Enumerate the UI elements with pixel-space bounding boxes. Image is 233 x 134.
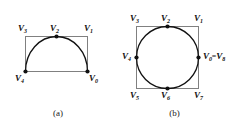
vertex-dot-v4	[134, 55, 138, 59]
vertex-label-v2: V2	[50, 24, 59, 34]
rectangle-outline	[26, 37, 88, 72]
vertex-label-v6: V6	[161, 91, 170, 101]
vertex-dot-v2	[54, 34, 58, 38]
vertex-label-v5: V5	[130, 91, 139, 101]
panel-caption-a: (a)	[0, 108, 116, 118]
vertex-label-v4: V4	[15, 74, 24, 84]
inscribed-circle	[137, 27, 199, 89]
vertex-label-v3: V3	[18, 24, 27, 34]
panel-caption-b: (b)	[116, 108, 233, 118]
vertex-label-v4: V4	[122, 52, 131, 62]
semicircle-arc	[26, 37, 88, 72]
vertex-dot-v4	[23, 69, 27, 73]
vertex-dot-v0	[196, 55, 200, 59]
figure-container: V3 V2 V1 V4 V0 (a) V3	[0, 0, 233, 134]
vertex-label-v1: V1	[84, 24, 93, 34]
vertex-label-v0: V0	[89, 74, 98, 84]
diagram-panel-a: V3 V2 V1 V4 V0 (a)	[0, 0, 116, 134]
vertex-label-v7: V7	[194, 91, 203, 101]
diagram-panel-b: V3 V2 V1 V4 V0=V8 V5 V6 V7 (b)	[116, 0, 233, 134]
vertex-label-v2: V2	[161, 14, 170, 24]
vertex-dot-v2	[165, 24, 169, 28]
vertex-label-v0-equals-v8: V0=V8	[203, 52, 225, 62]
vertex-label-v1: V1	[194, 14, 203, 24]
vertex-label-v3: V3	[130, 14, 139, 24]
